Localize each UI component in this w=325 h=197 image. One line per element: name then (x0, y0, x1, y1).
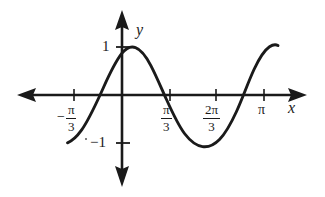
pi-over-3-fraction: π 3 (66, 103, 77, 133)
x-tick-label-neg-pi-over-3: − π 3 (57, 103, 76, 133)
two-pi-over-3-fraction: 2π 3 (203, 103, 220, 133)
fraction-denominator: 3 (161, 120, 172, 134)
x-tick-label-pi-over-3: π 3 (161, 103, 172, 133)
fraction-numerator: 2π (203, 103, 220, 117)
coordinate-plane-svg (0, 0, 325, 197)
x-tick-label-pi: π (258, 103, 265, 117)
fraction-denominator: 3 (203, 120, 220, 134)
y-tick-label-one: 1 (102, 39, 110, 54)
x-tick-label-2pi-over-3: 2π 3 (203, 103, 220, 133)
x-axis-label: x (288, 100, 295, 116)
y-tick-label-negative-one: −1 (90, 135, 106, 150)
y-axis-top-arrowhead (115, 10, 129, 30)
fraction-numerator: π (66, 103, 77, 117)
minus-sign: − (57, 110, 65, 124)
trig-graph-figure: y x 1 −1 − π 3 π 3 2π 3 π (0, 0, 325, 197)
y-axis-label: y (136, 22, 143, 38)
stray-ink-dot (85, 138, 87, 140)
y-axis-bottom-arrowhead (115, 166, 129, 187)
fraction-denominator: 3 (66, 120, 77, 134)
pi-over-3-fraction-positive: π 3 (161, 103, 172, 133)
neg-pi-over-3-expression: − π 3 (57, 103, 76, 133)
fraction-numerator: π (161, 103, 172, 117)
